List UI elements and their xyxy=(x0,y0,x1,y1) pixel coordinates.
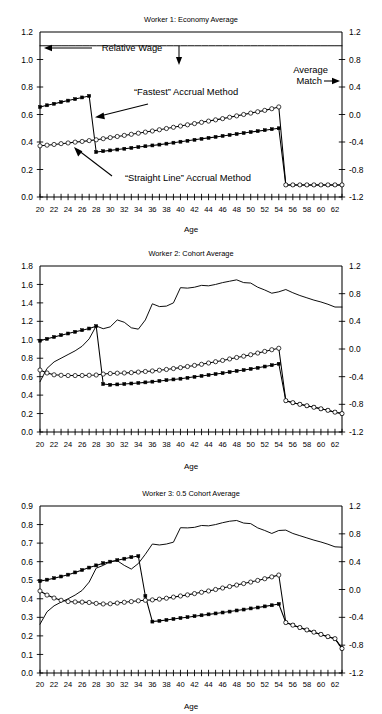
data-point-marker xyxy=(59,142,63,146)
data-point-marker xyxy=(129,132,133,136)
y-tick-label-left: 1.2 xyxy=(21,27,33,37)
y-tick-label-left: 0.7 xyxy=(21,538,33,548)
data-point-marker xyxy=(207,136,210,139)
data-point-marker xyxy=(185,364,189,368)
data-point-marker xyxy=(52,596,56,600)
data-point-marker xyxy=(221,611,224,614)
y-tick-label-left: 0.5 xyxy=(21,575,33,585)
data-point-marker xyxy=(178,366,182,370)
data-point-marker xyxy=(136,131,140,135)
x-tick-label: 46 xyxy=(218,205,226,214)
x-tick-label: 50 xyxy=(246,680,254,689)
data-point-marker xyxy=(263,129,266,132)
y-tick-label-right: 0.4 xyxy=(349,82,361,92)
data-point-marker xyxy=(80,600,84,604)
data-point-marker xyxy=(130,146,133,149)
y-tick-label-right: 0.8 xyxy=(349,289,361,299)
data-point-marker xyxy=(228,357,232,361)
data-point-marker xyxy=(242,132,245,135)
data-point-marker xyxy=(207,613,210,616)
data-point-marker xyxy=(235,609,238,612)
data-point-marker xyxy=(291,401,295,405)
data-point-marker xyxy=(74,330,77,333)
data-point-marker xyxy=(46,337,49,340)
data-point-marker xyxy=(193,138,196,141)
data-point-marker xyxy=(228,610,231,613)
data-point-marker xyxy=(179,140,182,143)
x-tick-label: 26 xyxy=(78,680,86,689)
data-point-marker xyxy=(116,148,119,151)
data-point-marker xyxy=(151,380,154,383)
data-point-marker xyxy=(200,374,203,377)
data-point-marker xyxy=(312,183,316,187)
data-point-marker xyxy=(171,125,175,129)
y-tick-label-left: 0.6 xyxy=(21,372,33,382)
data-point-marker xyxy=(59,598,63,602)
data-point-marker xyxy=(192,363,196,367)
y-tick-label-right: 0.8 xyxy=(349,529,361,539)
chart-panel-worker-3: Worker 3: 0.5 Cohort Average0.00.10.20.3… xyxy=(0,474,382,714)
data-point-marker xyxy=(221,372,224,375)
data-point-marker xyxy=(333,410,337,414)
data-point-marker xyxy=(270,107,274,111)
data-point-marker xyxy=(228,115,232,119)
data-point-marker xyxy=(186,376,189,379)
data-point-marker xyxy=(213,587,217,591)
x-tick-label: 32 xyxy=(120,680,128,689)
data-point-marker xyxy=(109,560,112,563)
data-point-marker xyxy=(214,135,217,138)
x-tick-label: 38 xyxy=(162,680,170,689)
data-point-marker xyxy=(199,590,203,594)
data-point-marker xyxy=(95,564,98,567)
data-point-marker xyxy=(214,612,217,615)
data-point-marker xyxy=(101,372,105,376)
data-point-marker xyxy=(214,373,217,376)
data-point-marker xyxy=(256,606,259,609)
data-point-marker xyxy=(298,183,302,187)
x-tick-label: 30 xyxy=(106,440,114,449)
data-point-marker xyxy=(228,371,231,374)
data-point-marker xyxy=(235,133,238,136)
data-point-marker xyxy=(66,141,70,145)
data-point-marker xyxy=(165,142,168,145)
x-tick-label: 26 xyxy=(78,205,86,214)
data-point-marker xyxy=(122,133,126,137)
x-tick-label: 22 xyxy=(50,440,58,449)
x-tick-label: 58 xyxy=(303,205,311,214)
data-point-marker xyxy=(186,616,189,619)
straight-line-arrow-shaft xyxy=(78,150,112,176)
data-point-marker xyxy=(88,94,91,97)
x-tick-label: 20 xyxy=(36,205,44,214)
data-point-marker xyxy=(67,573,70,576)
y-tick-label-right: -0.4 xyxy=(349,612,364,622)
data-point-marker xyxy=(228,584,232,588)
x-tick-label: 24 xyxy=(64,205,72,214)
y-tick-label-left: 1.4 xyxy=(21,298,33,308)
data-point-marker xyxy=(221,586,225,590)
data-point-marker xyxy=(157,128,161,132)
y-tick-label-left: 1.0 xyxy=(21,55,33,65)
data-point-marker xyxy=(185,123,189,127)
data-point-marker xyxy=(249,131,252,134)
data-point-marker xyxy=(150,369,154,373)
data-point-marker xyxy=(46,104,49,107)
data-point-marker xyxy=(158,143,161,146)
data-point-marker xyxy=(319,183,323,187)
annotation-relative-wage: Relative Wage xyxy=(102,42,163,53)
data-point-marker xyxy=(263,605,266,608)
chart-svg-worker-3: Worker 3: 0.5 Cohort Average0.00.10.20.3… xyxy=(0,474,382,714)
data-point-marker xyxy=(263,108,267,112)
data-point-marker xyxy=(150,598,154,602)
data-point-marker xyxy=(143,369,147,373)
x-tick-label: 54 xyxy=(275,440,283,449)
data-point-marker xyxy=(256,578,260,582)
data-point-marker xyxy=(102,562,105,565)
data-point-marker xyxy=(277,573,281,577)
data-point-marker xyxy=(123,147,126,150)
data-point-marker xyxy=(263,349,267,353)
data-point-marker xyxy=(164,596,168,600)
x-tick-label: 42 xyxy=(190,205,198,214)
y-tick-label-left: 0.4 xyxy=(21,594,33,604)
data-point-marker xyxy=(66,599,70,603)
data-point-marker xyxy=(81,569,84,572)
